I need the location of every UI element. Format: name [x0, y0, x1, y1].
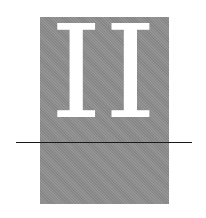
horizontal-rule — [16, 142, 192, 143]
roman-numeral-heading: II — [40, 7, 169, 117]
numeral-text: II — [50, 7, 159, 137]
